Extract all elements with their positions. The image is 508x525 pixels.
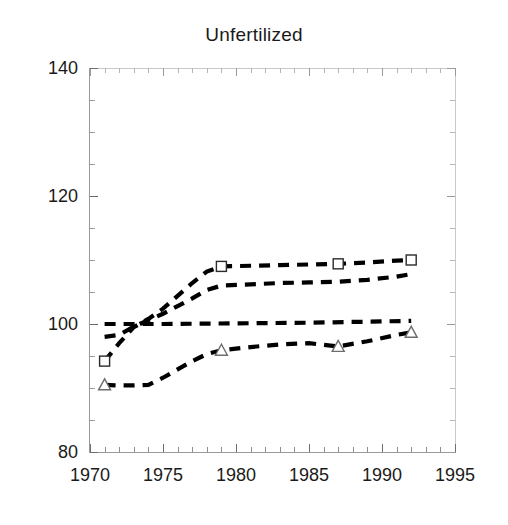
marker-square-1979 <box>216 261 226 271</box>
line-series-4-triangles <box>105 332 412 385</box>
chart-figure: Unfertilized 14012010080 197019751980198… <box>0 0 508 525</box>
series-layer <box>0 0 508 525</box>
series-paths <box>105 260 412 385</box>
line-series-3-flat <box>105 321 412 324</box>
line-series-2-plain <box>105 274 412 337</box>
marker-square-1992 <box>406 255 416 265</box>
marker-square-1971 <box>100 356 110 366</box>
marker-square-1987 <box>333 259 343 269</box>
